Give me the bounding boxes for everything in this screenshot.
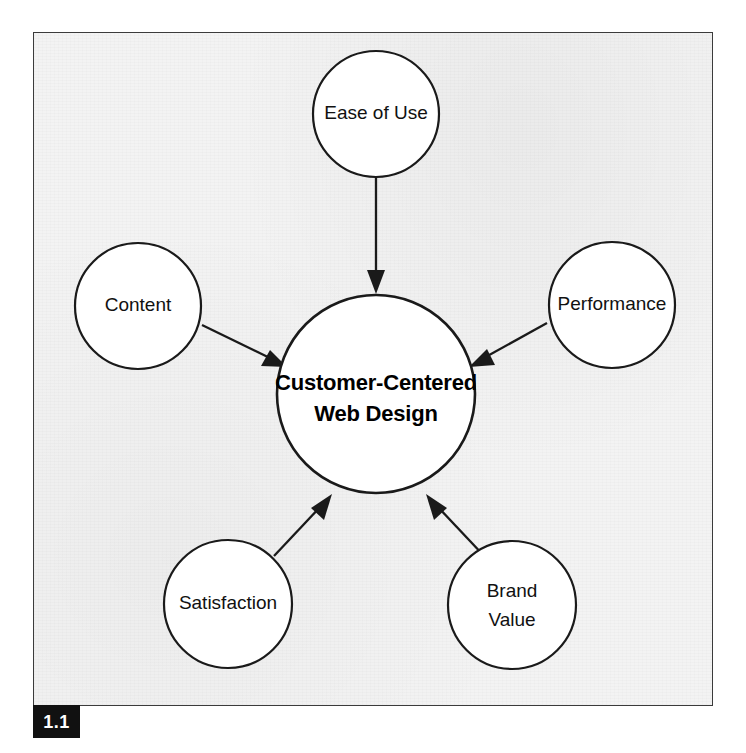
connector-content-to-center: [202, 325, 287, 367]
connector-performance-to-center: [469, 323, 547, 367]
connector-satisfaction-to-center: [274, 494, 332, 556]
node-performance[interactable]: Performance: [549, 242, 675, 368]
brand-value-node-circle[interactable]: [448, 541, 576, 669]
node-brand-value[interactable]: Brand Value: [448, 541, 576, 669]
node-satisfaction[interactable]: Satisfaction: [164, 540, 292, 668]
figure-root: Customer-Centered Web Design Ease of Use…: [0, 0, 746, 753]
diagram-frame: Customer-Centered Web Design Ease of Use…: [33, 32, 713, 706]
arrowhead-down-icon: [367, 270, 385, 294]
brand-value-node-label-line-2: Value: [488, 609, 535, 630]
figure-number-badge: 1.1: [33, 705, 80, 738]
center-node-label-line-1: Customer-Centered: [275, 370, 477, 395]
performance-node-label: Performance: [558, 293, 667, 314]
center-node-label-line-2: Web Design: [314, 401, 438, 426]
arrowhead-up-right-icon: [311, 494, 332, 520]
node-customer-centered-web-design[interactable]: Customer-Centered Web Design: [275, 295, 477, 493]
satisfaction-node-label: Satisfaction: [179, 592, 277, 613]
brand-value-node-label-line-1: Brand: [487, 580, 538, 601]
arrowhead-up-left-icon: [426, 494, 447, 520]
hub-and-spoke-diagram: Customer-Centered Web Design Ease of Use…: [34, 33, 713, 706]
node-ease-of-use[interactable]: Ease of Use: [313, 51, 439, 177]
figure-number-label: 1.1: [43, 713, 70, 731]
connector-brand-value-to-center: [426, 494, 486, 558]
node-content[interactable]: Content: [75, 243, 201, 369]
ease-of-use-node-label: Ease of Use: [324, 102, 428, 123]
content-node-label: Content: [105, 294, 172, 315]
arrowhead-down-left-icon: [469, 349, 495, 367]
connector-ease-of-use-to-center: [367, 176, 385, 294]
